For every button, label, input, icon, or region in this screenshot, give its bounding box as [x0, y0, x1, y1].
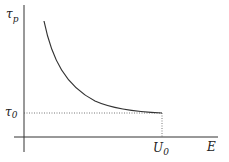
diagram-canvas: τp τ0 U0 E: [0, 0, 229, 162]
tau-p-curve: [44, 21, 162, 113]
tau0-label: τ0: [5, 105, 18, 120]
u0-label: U0: [153, 141, 169, 157]
x-axis-label: E: [206, 140, 216, 154]
y-axis-label: τp: [6, 7, 19, 24]
